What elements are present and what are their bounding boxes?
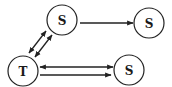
node-s-bottom: S	[114, 55, 144, 85]
node-label: S	[58, 14, 67, 28]
node-label: S	[145, 17, 154, 31]
node-s-top: S	[47, 5, 77, 35]
node-t: T	[8, 56, 38, 86]
edge-t-s-top-right	[35, 35, 52, 57]
diagram-canvas: S S T S	[0, 0, 172, 87]
edge-t-s-top-left	[29, 31, 46, 53]
node-label: S	[125, 64, 134, 78]
node-label: T	[19, 65, 28, 79]
node-s-right: S	[134, 8, 164, 38]
state-diagram: S S T S	[0, 0, 172, 87]
